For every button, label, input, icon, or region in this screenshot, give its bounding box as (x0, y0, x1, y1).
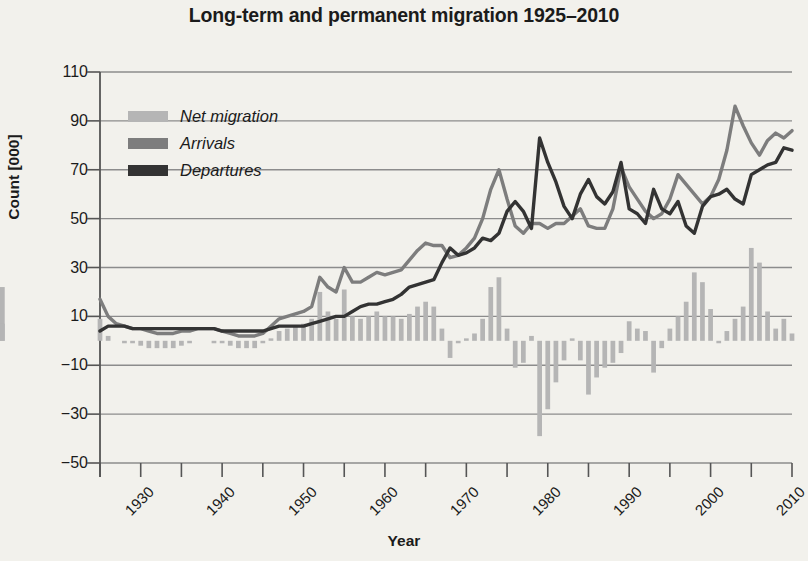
net-migration-bar (179, 341, 184, 346)
net-migration-bar (773, 329, 778, 341)
net-migration-bar (464, 338, 469, 340)
net-migration-bar (285, 329, 290, 341)
net-migration-bar (488, 287, 493, 341)
net-migration-bar (350, 316, 355, 340)
net-migration-bar (659, 341, 664, 348)
legend-item: Arrivals (128, 130, 278, 157)
net-migration-bar (521, 341, 526, 363)
net-migration-bar (635, 329, 640, 341)
net-migration-bar (716, 341, 721, 343)
net-migration-bar (260, 341, 265, 343)
net-migration-bar (456, 341, 461, 343)
net-migration-bar (138, 341, 143, 346)
net-migration-bar (391, 316, 396, 340)
net-migration-bar (562, 341, 567, 361)
net-migration-bar (374, 311, 379, 340)
net-migration-bar (326, 311, 331, 340)
net-migration-bar (684, 302, 689, 341)
net-migration-bar (0, 324, 5, 341)
net-migration-bar (415, 307, 420, 341)
net-migration-bar (586, 341, 591, 395)
net-migration-bar (554, 341, 559, 383)
net-migration-bar (440, 329, 445, 341)
net-migration-bar (252, 341, 257, 348)
net-migration-bar (700, 282, 705, 341)
net-migration-bar (480, 319, 485, 341)
chart-legend: Net migrationArrivalsDepartures (128, 103, 278, 184)
net-migration-bar (725, 331, 730, 341)
net-migration-bar (602, 341, 607, 368)
net-migration-bar (146, 341, 151, 348)
net-migration-bar (757, 263, 762, 341)
net-migration-bar (643, 331, 648, 341)
net-migration-bar (228, 341, 233, 346)
net-migration-bar (366, 316, 371, 340)
net-migration-bar (317, 292, 322, 341)
net-migration-bar (277, 331, 282, 341)
net-migration-bar (358, 319, 363, 341)
legend-item: Net migration (128, 103, 278, 130)
net-migration-bar (269, 338, 274, 340)
net-migration-bar (513, 341, 518, 368)
net-migration-bar (244, 341, 249, 348)
net-migration-bar (212, 341, 217, 343)
net-migration-bar (741, 307, 746, 341)
net-migration-bar (765, 311, 770, 340)
net-migration-bar (676, 316, 681, 340)
net-migration-bar (163, 341, 168, 348)
net-migration-bar (423, 302, 428, 341)
net-migration-bar (790, 333, 795, 340)
net-migration-bar (448, 341, 453, 358)
net-migration-bar (187, 341, 192, 343)
net-migration-bar (668, 329, 673, 341)
net-migration-bar (545, 341, 550, 409)
net-migration-bar (733, 319, 738, 341)
migration-chart-figure: Long-term and permanent migration 1925–2… (0, 0, 808, 561)
net-migration-bar (122, 341, 127, 343)
net-migration-bar (293, 326, 298, 341)
net-migration-bar (537, 341, 542, 436)
net-migration-bar (594, 341, 599, 378)
net-migration-bar (399, 319, 404, 341)
net-migration-bar (431, 307, 436, 341)
net-migration-bar (155, 341, 160, 348)
net-migration-bar (383, 316, 388, 340)
legend-item: Departures (128, 157, 278, 184)
net-migration-bar (130, 341, 135, 343)
net-migration-bar (578, 341, 583, 361)
net-migration-bar (749, 248, 754, 341)
legend-swatch-icon (128, 111, 168, 122)
net-migration-bar (708, 309, 713, 341)
legend-swatch-icon (128, 165, 168, 176)
net-migration-bar (692, 272, 697, 340)
net-migration-bar (220, 341, 225, 343)
net-migration-bar (106, 336, 111, 341)
net-migration-bar (171, 341, 176, 348)
net-migration-bar (781, 319, 786, 341)
net-migration-bar (497, 277, 502, 341)
net-migration-bar (505, 329, 510, 341)
plot-area (0, 0, 808, 561)
net-migration-bar (570, 338, 575, 340)
net-migration-bar (236, 341, 241, 348)
net-migration-bar (334, 319, 339, 341)
net-migration-bars (0, 248, 794, 436)
legend-swatch-icon (128, 138, 168, 149)
net-migration-bar (651, 341, 656, 373)
net-migration-bar (472, 333, 477, 340)
legend-label: Net migration (180, 107, 278, 126)
net-migration-bar (627, 321, 632, 341)
net-migration-bar (407, 314, 412, 341)
legend-label: Arrivals (180, 134, 235, 153)
net-migration-bar (529, 336, 534, 341)
net-migration-bar (611, 341, 616, 363)
legend-label: Departures (180, 161, 262, 180)
net-migration-bar (619, 341, 624, 353)
